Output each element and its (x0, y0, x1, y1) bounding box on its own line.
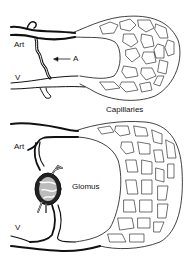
bottom-capillary-mesh (98, 126, 176, 242)
top-artery-branch-stub (27, 22, 36, 29)
anastomosis-vessel (36, 39, 50, 78)
bottom-vein-ascent-outer (30, 205, 55, 242)
top-artery-label: Art (14, 41, 24, 49)
anastomosis-label: A (73, 55, 78, 63)
bottom-artery-top-edge (11, 123, 78, 131)
anastomosis-arrowhead (54, 57, 58, 61)
vascular-diagram (0, 0, 187, 264)
top-panel (11, 16, 180, 100)
bottom-vein-label: V (15, 224, 20, 232)
capillaries-label: Capillaries (106, 106, 143, 114)
bottom-artery-descent-inner (39, 142, 44, 166)
top-artery-upper-wall (11, 27, 75, 33)
top-vein-label: V (15, 74, 20, 82)
bottom-vein-left-wall (11, 236, 30, 242)
glomus-label: Glomus (72, 183, 100, 191)
top-capillary-mesh (100, 19, 174, 92)
bottom-vein-ascent-inner (58, 205, 75, 242)
top-vein-upper-wall (11, 76, 78, 83)
top-vein-branch-stub (40, 88, 51, 98)
top-artery-lower-wall (11, 35, 75, 40)
top-capillary-inner (75, 37, 120, 78)
top-vein-lower-wall (11, 87, 85, 89)
bottom-vein-lower-wall (11, 246, 100, 251)
bottom-artery-label: Art (14, 143, 24, 151)
